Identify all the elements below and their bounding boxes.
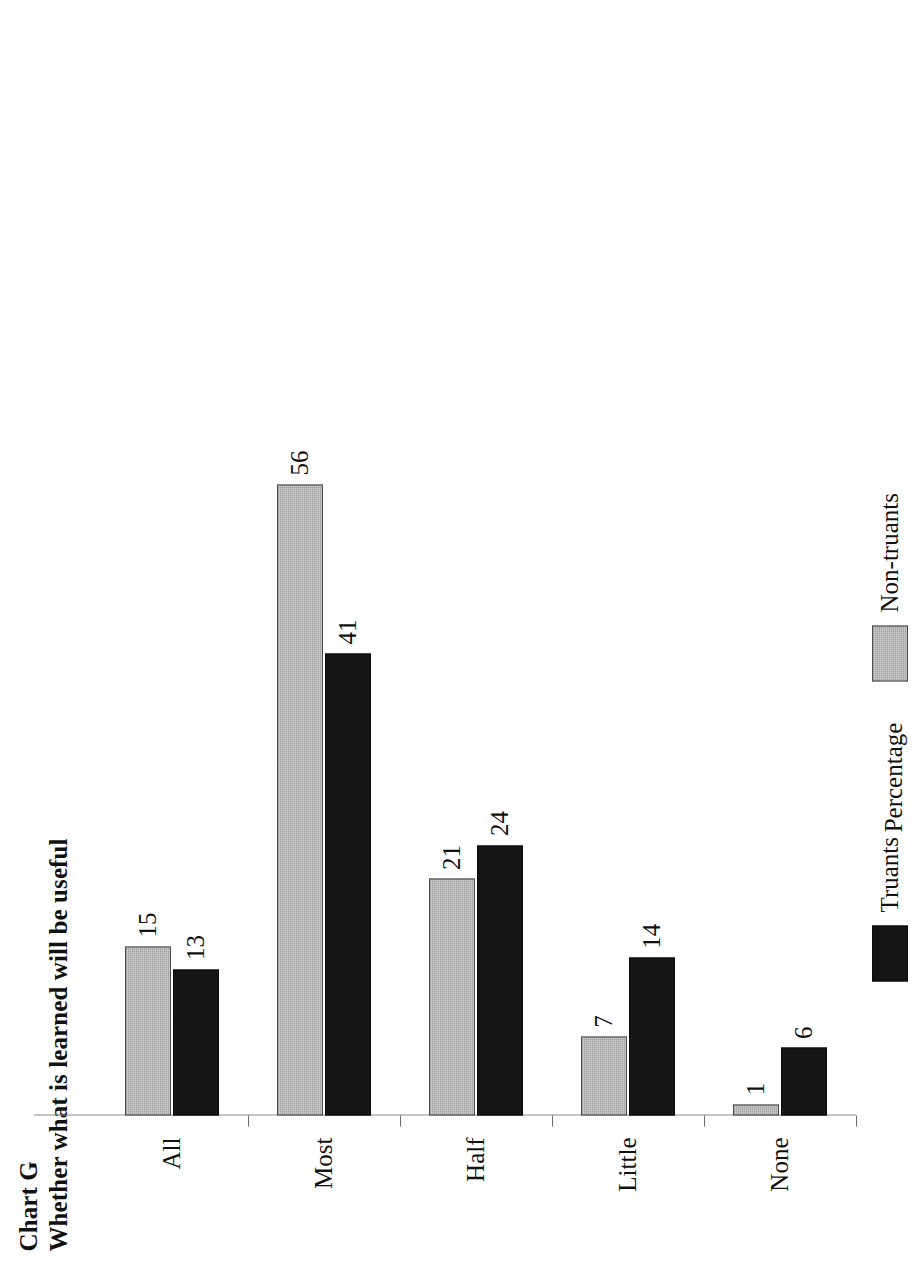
truants-bar[interactable]: 24 [477, 845, 523, 1115]
legend-swatch-truants [872, 925, 908, 981]
nontruants-bar[interactable]: 7 [581, 1036, 627, 1115]
nontruants-value-label: 56 [286, 450, 314, 475]
bar-group: 16 [733, 439, 827, 1115]
legend-swatch-nontruants [872, 625, 908, 681]
truants-bar-wrapper: 14 [629, 439, 675, 1115]
page-canvas: Chart G Whether what is learned will be … [0, 0, 914, 1281]
truants-bar-wrapper: 41 [325, 439, 371, 1115]
legend-label-nontruants: Non-truants [876, 493, 904, 612]
category-label-none: None [766, 1137, 794, 1191]
title-block: Chart G Whether what is learned will be … [14, 838, 73, 1251]
nontruants-bar[interactable]: 56 [277, 484, 323, 1115]
plot-area: 0102030405060 1513All5641Most2124Half714… [96, 439, 856, 1115]
nontruants-bar-wrapper: 15 [125, 439, 171, 1115]
nontruants-value-label: 21 [438, 844, 466, 869]
legend-label-truants: Truants [876, 837, 904, 913]
nontruants-bar[interactable]: 21 [429, 878, 475, 1115]
bar-group: 714 [581, 439, 675, 1115]
category-tick [400, 1115, 401, 1126]
nontruants-value-label: 15 [134, 912, 162, 937]
truants-value-label: 14 [638, 923, 666, 948]
bar-group: 2124 [429, 439, 523, 1115]
nontruants-bar-wrapper: 21 [429, 439, 475, 1115]
page-title: Whether what is learned will be useful [44, 838, 74, 1251]
bar-group: 5641 [277, 439, 371, 1115]
nontruants-bar[interactable]: 1 [733, 1104, 779, 1115]
legend-entry-nontruants[interactable]: Non-truants [872, 493, 908, 681]
category-label-all: All [158, 1137, 186, 1169]
category-tick [704, 1115, 705, 1126]
category-tick [248, 1115, 249, 1126]
chart-stage: Chart G Whether what is learned will be … [0, 0, 914, 1281]
nontruants-value-label: 7 [590, 1015, 618, 1028]
truants-bar[interactable]: 14 [629, 957, 675, 1115]
category-tick [856, 1115, 857, 1126]
truants-bar-wrapper: 13 [173, 439, 219, 1115]
truants-bar[interactable]: 6 [781, 1047, 827, 1115]
truants-value-label: 41 [334, 619, 362, 644]
truants-bar[interactable]: 13 [173, 969, 219, 1115]
category-label-little: Little [614, 1137, 642, 1191]
truants-value-label: 24 [486, 811, 514, 836]
truants-value-label: 13 [182, 935, 210, 960]
truants-bar[interactable]: 41 [325, 653, 371, 1115]
legend-entry-truants[interactable]: Truants [872, 837, 908, 982]
nontruants-bar-wrapper: 7 [581, 439, 627, 1115]
nontruants-value-label: 1 [742, 1082, 770, 1095]
category-label-most: Most [310, 1137, 338, 1188]
value-axis-title: Percentage [880, 722, 908, 832]
category-tick [552, 1115, 553, 1126]
truants-value-label: 6 [790, 1026, 818, 1039]
truants-bar-wrapper: 6 [781, 439, 827, 1115]
nontruants-bar[interactable]: 15 [125, 946, 171, 1115]
bar-group: 1513 [125, 439, 219, 1115]
nontruants-bar-wrapper: 56 [277, 439, 323, 1115]
category-label-half: Half [462, 1137, 490, 1181]
truants-bar-wrapper: 24 [477, 439, 523, 1115]
nontruants-bar-wrapper: 1 [733, 439, 779, 1115]
chart-label: Chart G [14, 838, 44, 1251]
